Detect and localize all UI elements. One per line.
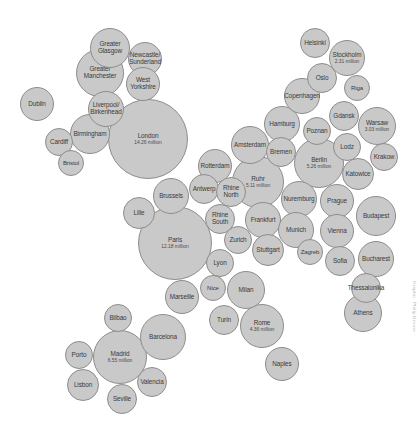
bubble-nice[interactable]: Nice <box>200 275 226 301</box>
bubble-label: Frankfurt <box>251 217 276 224</box>
bubble-label: Birmingham <box>73 131 106 138</box>
bubble-porto[interactable]: Porto <box>65 341 93 369</box>
bubble-label: Rome <box>254 320 271 327</box>
bubble-label: Gdansk <box>333 113 354 120</box>
bubble-label: Paris <box>168 237 182 244</box>
bubble-label: Thessalonika <box>348 285 384 292</box>
bubble-amsterdam[interactable]: Amsterdam <box>231 126 269 164</box>
bubble-helsinki[interactable]: Helsinki <box>300 28 330 58</box>
bubble-label: Lodz <box>340 144 353 151</box>
bubble-label: Riga <box>351 85 363 91</box>
bubble-label: Newcastle/ Sunderland <box>129 52 161 65</box>
bubble-lisbon[interactable]: Lisbon <box>67 369 99 401</box>
bubble-label: Antwerp <box>193 186 216 193</box>
bubble-west-yorkshire[interactable]: West Yorkshire <box>126 67 160 101</box>
bubble-population: 2.31 million <box>335 59 360 64</box>
bubble-poznan[interactable]: Poznan <box>303 117 331 145</box>
bubble-prague[interactable]: Prague <box>320 184 354 218</box>
bubble-seville[interactable]: Seville <box>107 384 137 414</box>
bubble-label: Rotterdam <box>201 163 230 170</box>
bubble-label: Prague <box>327 198 347 205</box>
bubble-label: Nuremburg <box>283 196 314 203</box>
bubble-label: Lyon <box>213 260 226 267</box>
bubble-label: Bucharest <box>362 256 390 263</box>
bubble-label: Dublin <box>28 101 46 108</box>
bubble-label: Cardiff <box>50 139 68 146</box>
bubble-milan[interactable]: Milan <box>227 271 265 309</box>
bubble-gdansk[interactable]: Gdansk <box>329 101 359 131</box>
bubble-population: 5.11 million <box>246 183 270 188</box>
bubble-naples[interactable]: Naples <box>265 347 299 381</box>
bubble-population: 6.55 million <box>108 358 133 363</box>
bubble-label: Lisbon <box>74 382 92 389</box>
bubble-barcelona[interactable]: Barcelona <box>140 314 186 360</box>
bubble-zagreb[interactable]: Zagreb <box>297 239 323 265</box>
bubble-label: Vienna <box>327 228 346 235</box>
bubble-label: Turin <box>217 317 231 324</box>
bubble-rome[interactable]: Rome4.36 million <box>240 304 284 348</box>
bubble-antwerp[interactable]: Antwerp <box>189 174 219 204</box>
bubble-label: Munich <box>286 227 306 234</box>
bubble-label: Sofia <box>333 258 347 265</box>
bubble-sofia[interactable]: Sofia <box>325 246 355 276</box>
bubble-label: Porto <box>72 352 87 359</box>
bubble-label: Naples <box>272 361 291 368</box>
bubble-label: Katowice <box>345 171 370 178</box>
bubble-label: Greater Glasgow <box>98 41 122 54</box>
bubble-label: Rhine North <box>223 185 239 198</box>
credit-text: Graphic: Philip Brewer <box>412 281 417 332</box>
bubble-riga[interactable]: Riga <box>344 75 370 101</box>
bubble-oslo[interactable]: Oslo <box>307 63 337 93</box>
bubble-dublin[interactable]: Dublin <box>20 87 54 121</box>
bubble-label: Liverpool/ Birkenhead <box>90 102 121 115</box>
bubble-label: Greater Manchester <box>84 66 116 79</box>
bubble-label: Bristol <box>63 160 79 166</box>
bubble-turin[interactable]: Turin <box>209 305 239 335</box>
bubble-zurich[interactable]: Zurich <box>224 226 252 254</box>
bubble-label: Hamburg <box>269 121 295 128</box>
bubble-map: London14.26 millionParis12.18 millionMad… <box>0 0 420 428</box>
bubble-label: Marseille <box>170 294 195 301</box>
bubble-label: West Yorkshire <box>130 77 156 90</box>
bubble-label: Rhine South <box>212 212 228 225</box>
bubble-rhine-north[interactable]: Rhine North <box>216 177 246 207</box>
bubble-greater-glasgow[interactable]: Greater Glasgow <box>90 28 130 68</box>
bubble-label: Poznan <box>306 128 327 135</box>
bubble-label: Helsinki <box>304 40 326 47</box>
bubble-label: Ruhr <box>251 176 264 183</box>
bubble-warsaw[interactable]: Warsaw3.03 million <box>358 107 396 145</box>
bubble-thessalonika[interactable]: Thessalonika <box>351 273 381 303</box>
bubble-label: Warsaw <box>366 120 388 127</box>
bubble-label: Zurich <box>229 237 246 244</box>
bubble-bristol[interactable]: Bristol <box>58 150 84 176</box>
bubble-label: London <box>138 133 159 140</box>
bubble-label: Zagreb <box>301 249 320 255</box>
bubble-lyon[interactable]: Lyon <box>206 249 234 277</box>
bubble-lodz[interactable]: Lodz <box>333 133 361 161</box>
bubble-label: Nice <box>207 285 219 291</box>
bubble-krakow[interactable]: Krakow <box>370 143 398 171</box>
bubble-budapest[interactable]: Budapest <box>356 196 396 236</box>
bubble-label: Lille <box>134 210 145 217</box>
bubble-label: Stockholm <box>333 52 362 59</box>
bubble-layer: London14.26 millionParis12.18 millionMad… <box>0 0 420 428</box>
bubble-bilbao[interactable]: Bilbao <box>104 304 132 332</box>
bubble-population: 14.26 million <box>134 140 161 145</box>
bubble-bremen[interactable]: Bremen <box>266 137 296 167</box>
bubble-label: Krakow <box>374 154 395 161</box>
bubble-stuttgart[interactable]: Stuttgart <box>252 234 284 266</box>
bubble-katowice[interactable]: Katowice <box>342 158 374 190</box>
bubble-liverpool-birkenhead[interactable]: Liverpool/ Birkenhead <box>88 91 124 127</box>
bubble-brussels[interactable]: Brussels <box>153 178 189 214</box>
bubble-label: Madrid <box>111 351 130 358</box>
bubble-marseille[interactable]: Marseille <box>165 280 199 314</box>
bubble-lille[interactable]: Lille <box>123 197 155 229</box>
bubble-valencia[interactable]: Valencia <box>137 367 167 397</box>
bubble-label: Amsterdam <box>234 142 266 149</box>
bubble-label: Bremen <box>270 149 292 156</box>
bubble-label: Oslo <box>316 75 329 82</box>
bubble-label: Berlin <box>311 157 327 164</box>
bubble-vienna[interactable]: Vienna <box>320 214 354 248</box>
bubble-bucharest[interactable]: Bucharest <box>358 241 394 277</box>
bubble-label: Seville <box>113 396 131 403</box>
